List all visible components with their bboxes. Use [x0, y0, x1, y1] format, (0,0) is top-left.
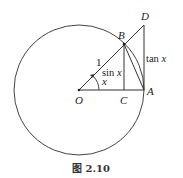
label-tan-x: tan x: [146, 53, 166, 64]
tan-fn: tan: [146, 53, 160, 64]
segment-OD: [79, 25, 144, 90]
label-radius: 1: [96, 56, 102, 68]
point-O: [78, 89, 81, 92]
sin-arg: x: [116, 67, 122, 78]
point-B: [123, 43, 126, 46]
angle-arc: [93, 76, 99, 90]
tan-arg: x: [160, 53, 166, 64]
label-D: D: [140, 10, 149, 22]
chord-BA: [124, 44, 144, 90]
label-A: A: [146, 85, 154, 97]
label-angle-x: x: [101, 75, 107, 87]
label-C: C: [120, 94, 128, 106]
label-B: B: [118, 29, 125, 41]
figure-caption: 图 2.10: [72, 163, 110, 174]
unit-circle-diagram: O C A B D 1 sin x x tan x 图 2.10: [0, 0, 183, 178]
label-O: O: [75, 94, 83, 106]
